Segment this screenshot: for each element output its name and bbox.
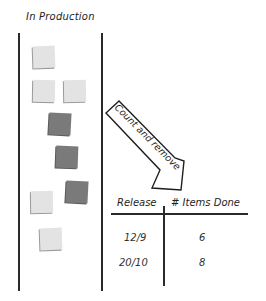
- table-header-release: Release: [117, 197, 157, 208]
- release-cell: 12/9: [124, 232, 146, 243]
- count-and-remove-arrow-icon: Count and remove: [0, 0, 266, 301]
- table-header-divider: [111, 213, 248, 215]
- items-done-cell: 8: [199, 257, 205, 268]
- release-cell: 20/10: [119, 257, 148, 268]
- table-column-divider: [163, 206, 165, 286]
- arrow-label: Count and remove: [113, 102, 183, 172]
- table-header-items-done: # Items Done: [171, 197, 240, 208]
- items-done-cell: 6: [199, 232, 205, 243]
